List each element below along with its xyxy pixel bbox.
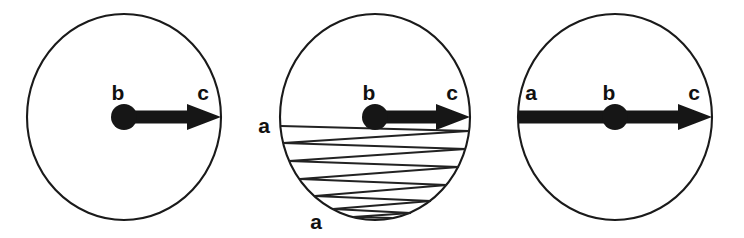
bouncing-chord-panel: abca	[258, 14, 470, 233]
center-node-dot	[362, 104, 388, 130]
center-node-dot	[111, 104, 137, 130]
label-c: c	[197, 81, 209, 104]
figure-canvas: bcabcaabc	[0, 0, 744, 238]
label-b: b	[112, 81, 125, 104]
figure-root: bcabcaabc	[0, 0, 744, 238]
radial-ray-panel: bc	[27, 14, 221, 220]
center-node-dot	[602, 104, 628, 130]
panels-group: bcabcaabc	[27, 14, 712, 233]
label-a-upper-left: a	[258, 114, 270, 137]
label-c: c	[446, 81, 458, 104]
label-a: a	[525, 81, 537, 104]
label-a-lower: a	[310, 210, 322, 233]
diameter-ray-panel: abc	[518, 14, 712, 220]
label-c: c	[688, 81, 700, 104]
label-b: b	[363, 81, 376, 104]
label-b: b	[603, 81, 616, 104]
